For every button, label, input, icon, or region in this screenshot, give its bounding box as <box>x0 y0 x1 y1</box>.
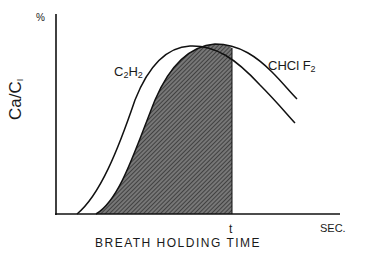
series-label-c2h2: C2H2 <box>114 64 143 80</box>
y-unit-label: % <box>36 12 45 23</box>
chart-canvas <box>0 0 368 268</box>
x-axis-title: BREATH HOLDING TIME <box>95 236 261 250</box>
series-label-chclf2: CHCl F2 <box>268 58 316 74</box>
x-unit-label: SEC. <box>320 222 346 234</box>
t-marker-label: t <box>229 222 232 236</box>
y-axis-label: Ca/CI <box>6 79 26 120</box>
